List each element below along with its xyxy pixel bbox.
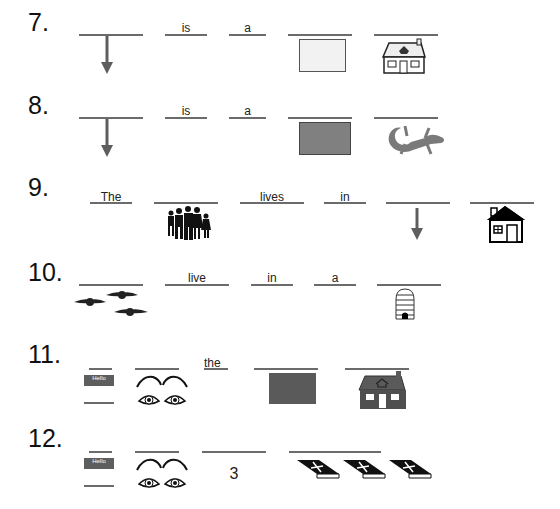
grey-color-swatch [299,122,351,155]
word-is: is [165,22,207,34]
word-underline [165,117,207,119]
arrow-down-icon [100,36,114,76]
word-underline [165,284,229,286]
word-underline [90,202,132,204]
bees-icon [74,290,152,322]
answer-blank[interactable] [135,368,179,370]
bibles-icon [295,456,435,486]
answer-blank[interactable] [374,34,438,36]
answer-blank[interactable] [135,451,179,453]
arrow-down-icon [410,208,424,242]
name-tag-text: Hello [92,458,106,464]
answer-blank[interactable] [288,117,352,119]
eyes-icon [133,456,191,492]
item-number: 9. [28,173,49,202]
word-underline [251,284,293,286]
word-underline [204,368,228,370]
answer-blank[interactable] [79,284,143,286]
answer-blank[interactable] [84,402,114,404]
number-three: 3 [202,466,266,482]
word-underline [314,284,356,286]
name-tag-text: Hello [92,375,106,381]
word-in: in [251,272,293,284]
answer-blank[interactable] [288,34,352,36]
word-a: a [229,105,266,117]
answer-blank[interactable] [84,485,114,487]
answer-blank[interactable] [374,117,438,119]
word-underline [240,202,304,204]
item-number: 8. [28,91,49,120]
answer-blank[interactable] [89,368,112,370]
light-color-swatch [299,39,346,72]
name-tag-icon: Hello [84,458,114,469]
word-underline [229,34,266,36]
answer-blank[interactable] [386,202,450,204]
word-underline [324,202,366,204]
house-icon [357,370,409,410]
word-a: a [229,22,266,34]
item-number: 11. [28,340,61,369]
word-underline [229,117,266,119]
arrow-down-icon [100,119,114,159]
item-number: 12. [28,424,63,453]
item-number: 10. [28,258,63,287]
name-tag-icon: Hello [84,375,114,386]
answer-blank[interactable] [202,451,266,453]
beehive-icon [392,287,418,321]
answer-blank[interactable] [154,202,218,204]
answer-blank[interactable] [254,368,318,370]
answer-blank[interactable] [89,451,112,453]
word-underline [165,34,207,36]
answer-blank[interactable] [377,284,441,286]
house-icon [379,37,429,75]
family-icon [165,206,213,242]
item-number: 7. [28,8,49,37]
house-icon [485,204,527,244]
eyes-icon [133,373,191,409]
dark-grey-color-swatch [269,373,316,404]
word-a: a [314,272,356,284]
word-is: is [165,105,207,117]
lizard-icon [385,124,447,158]
answer-blank[interactable] [289,451,381,453]
word-live: live [165,272,229,284]
